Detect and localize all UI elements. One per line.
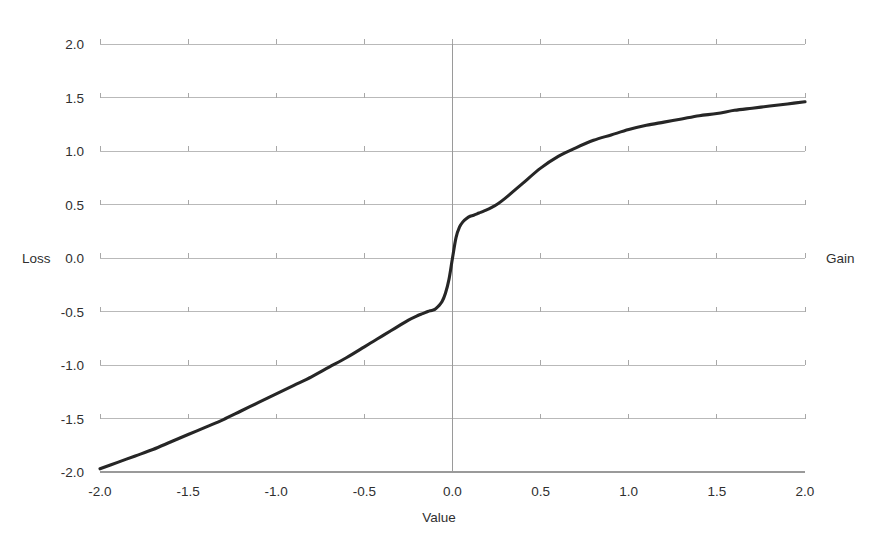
value-function-chart: 2.01.51.00.50.0-0.5-1.0-1.5-2.0 -2.0-1.5… xyxy=(0,0,878,548)
gain-axis-label: Gain xyxy=(826,251,855,266)
x-axis-title: Value xyxy=(422,510,456,525)
y-tick-label: -2.0 xyxy=(61,465,84,480)
y-tick-label: 0.5 xyxy=(65,198,84,213)
x-tick-label: -1.0 xyxy=(265,484,288,499)
x-tick-label: -2.0 xyxy=(88,484,111,499)
y-tick-label: -0.5 xyxy=(61,305,84,320)
y-axis-tick-labels: 2.01.51.00.50.0-0.5-1.0-1.5-2.0 xyxy=(61,37,84,480)
x-tick-label: 2.0 xyxy=(796,484,815,499)
x-tick-label: 0.0 xyxy=(443,484,462,499)
x-tick-label: -1.5 xyxy=(176,484,199,499)
y-tick-label: 2.0 xyxy=(65,37,84,52)
x-tick-label: 1.5 xyxy=(707,484,726,499)
x-tick-label: 0.5 xyxy=(531,484,550,499)
y-tick-label: -1.5 xyxy=(61,412,84,427)
chart-canvas: 2.01.51.00.50.0-0.5-1.0-1.5-2.0 -2.0-1.5… xyxy=(0,0,878,548)
loss-axis-label: Loss xyxy=(22,251,51,266)
x-tick-label: -0.5 xyxy=(353,484,376,499)
y-tick-label: 0.0 xyxy=(65,251,84,266)
y-tick-label: 1.5 xyxy=(65,91,84,106)
x-axis-tick-labels: -2.0-1.5-1.0-0.50.00.51.01.52.0 xyxy=(88,484,814,499)
y-tick-label: 1.0 xyxy=(65,144,84,159)
y-tick-label: -1.0 xyxy=(61,358,84,373)
x-tick-label: 1.0 xyxy=(619,484,638,499)
